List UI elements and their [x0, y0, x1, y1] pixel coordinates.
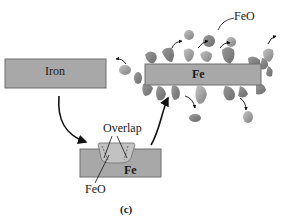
- overlap-label: Overlap: [103, 121, 142, 136]
- feo-label-top: FeO: [234, 9, 255, 24]
- panel-label: (c): [120, 203, 132, 215]
- feo-label-bottom: FeO: [85, 182, 106, 197]
- iron-label: Iron: [45, 64, 65, 79]
- fe-block-bottom: [80, 143, 161, 177]
- diagram-canvas: [0, 0, 281, 218]
- fe-label-bottom: Fe: [124, 163, 137, 178]
- feo-leader-top: [218, 18, 234, 30]
- arrow-overlap-to-fe: [151, 98, 168, 145]
- fe-label-right: Fe: [192, 67, 205, 82]
- arrow-iron-to-overlap: [59, 96, 86, 142]
